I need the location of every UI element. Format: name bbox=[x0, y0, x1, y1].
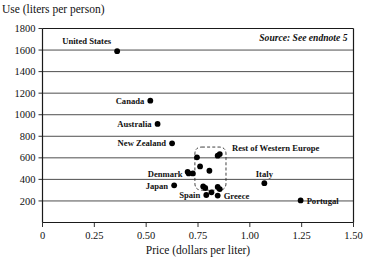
data-point-japan bbox=[171, 182, 177, 188]
data-point-spain bbox=[203, 192, 209, 198]
data-point-label-greece: Greece bbox=[224, 191, 250, 201]
data-point-greece bbox=[215, 193, 221, 199]
y-tick-label-1800: 1800 bbox=[15, 23, 36, 34]
data-point-italy bbox=[261, 180, 267, 186]
data-point-label-japan: Japan bbox=[146, 181, 169, 191]
y-tick-label-400: 400 bbox=[20, 174, 36, 185]
data-point-canada bbox=[147, 98, 153, 104]
cluster-label: Rest of Western Europe bbox=[232, 143, 319, 153]
cluster-data-point bbox=[217, 151, 223, 157]
x-axis-title: Price (dollars per liter) bbox=[146, 244, 251, 257]
data-point-denmark bbox=[186, 171, 192, 177]
source-note: Source: See endnote 5 bbox=[259, 32, 347, 43]
x-tick-label-3: 0.75 bbox=[189, 230, 207, 241]
data-point-australia bbox=[155, 121, 161, 127]
y-tick-label-1200: 1200 bbox=[15, 88, 36, 99]
data-point-label-portugal: Portugal bbox=[307, 196, 340, 206]
data-point-label-canada: Canada bbox=[116, 96, 145, 106]
y-tick-label-1600: 1600 bbox=[15, 45, 36, 56]
y-tick-label-200: 200 bbox=[20, 196, 36, 207]
data-point-label-australia: Australia bbox=[117, 119, 152, 129]
scatter-chart: Use (liters per person)20040060080010001… bbox=[0, 0, 368, 268]
cluster-data-point bbox=[202, 185, 208, 191]
x-tick-label-6: 1.50 bbox=[344, 230, 362, 241]
y-tick-label-1400: 1400 bbox=[15, 66, 36, 77]
x-tick-label-4: 1.00 bbox=[241, 230, 259, 241]
y-tick-label-1000: 1000 bbox=[15, 109, 36, 120]
data-point-label-italy: Italy bbox=[256, 169, 274, 179]
cluster-data-point bbox=[217, 186, 223, 192]
y-tick-label-600: 600 bbox=[20, 152, 36, 163]
chart-canvas: Use (liters per person)20040060080010001… bbox=[0, 0, 368, 268]
data-point-label-spain: Spain bbox=[179, 190, 200, 200]
x-tick-label-0: 0 bbox=[40, 230, 45, 241]
x-tick-label-5: 1.25 bbox=[292, 230, 310, 241]
y-axis-title: Use (liters per person) bbox=[2, 3, 105, 16]
data-point-label-new-zealand: New Zealand bbox=[118, 138, 167, 148]
cluster-data-point bbox=[194, 154, 200, 160]
data-point-label-denmark: Denmark bbox=[148, 169, 183, 179]
cluster-data-point bbox=[209, 189, 215, 195]
data-point-label-united-states: United States bbox=[62, 36, 112, 46]
y-tick-label-800: 800 bbox=[20, 131, 36, 142]
data-point-portugal bbox=[298, 198, 304, 204]
x-tick-label-1: 0.25 bbox=[85, 230, 103, 241]
x-tick-label-2: 0.50 bbox=[137, 230, 155, 241]
data-point-united-states bbox=[114, 48, 120, 54]
cluster-data-point bbox=[207, 168, 213, 174]
data-point-new-zealand bbox=[169, 140, 175, 146]
cluster-data-point bbox=[197, 164, 203, 170]
